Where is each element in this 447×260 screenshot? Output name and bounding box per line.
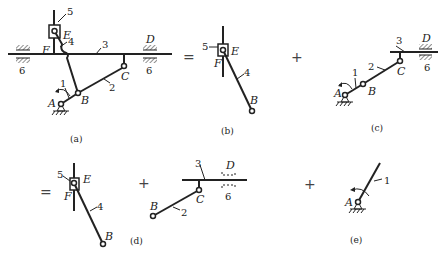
label-F: F xyxy=(63,190,72,203)
label-member-3: 3 xyxy=(396,35,402,46)
label-member-4: 4 xyxy=(244,67,250,78)
label-member-6-right: 6 xyxy=(146,65,152,76)
joint-E xyxy=(221,48,226,53)
joint-A xyxy=(59,102,64,107)
caption-b: (b) xyxy=(221,126,234,136)
member-2-link xyxy=(153,190,199,216)
label-member-3: 3 xyxy=(102,39,108,50)
joint-B xyxy=(151,214,156,219)
label-C: C xyxy=(121,70,130,83)
panel-d: 5 E F 4 B (d) + 3 D 6 C B 2 xyxy=(57,158,247,247)
label-member-4: 4 xyxy=(97,201,103,212)
removed-guide-6-top xyxy=(222,172,235,175)
label-member-4: 4 xyxy=(68,36,74,47)
label-member-1: 1 xyxy=(60,78,66,89)
joint-A xyxy=(343,93,348,98)
label-A: A xyxy=(333,87,342,100)
label-member-2: 2 xyxy=(368,61,374,72)
member-4-link xyxy=(74,183,103,244)
label-A: A xyxy=(344,196,353,209)
joint-C xyxy=(122,64,127,69)
label-member-2: 2 xyxy=(109,82,115,93)
label-F: F xyxy=(41,44,50,57)
caption-e: (e) xyxy=(350,235,362,245)
label-B: B xyxy=(249,94,258,107)
caption-d: (d) xyxy=(130,236,143,246)
panel-a: 5 E 4 F 3 D 6 6 C 2 1 B A (a) xyxy=(8,6,172,144)
member-2-link xyxy=(78,67,124,93)
equals-sign-2: = xyxy=(40,184,52,200)
label-C: C xyxy=(196,193,205,206)
label-E: E xyxy=(82,173,91,186)
panel-b: 5 E F 4 B (b) xyxy=(202,26,258,136)
label-member-1: 1 xyxy=(352,67,358,78)
label-D: D xyxy=(145,33,155,46)
label-B: B xyxy=(80,94,89,107)
mechanism-diagram: 5 E 4 F 3 D 6 6 C 2 1 B A (a) = 5 E F 4 … xyxy=(0,0,447,260)
joint-C xyxy=(197,188,202,193)
label-B-2: B xyxy=(149,200,158,213)
label-member-6: 6 xyxy=(424,62,430,73)
label-F: F xyxy=(213,57,222,70)
joint-B xyxy=(250,109,255,114)
label-member-5: 5 xyxy=(202,41,208,52)
caption-c: (c) xyxy=(371,123,383,133)
joint-C xyxy=(398,59,403,64)
joint-B xyxy=(361,82,366,87)
label-member-2: 2 xyxy=(181,207,187,218)
plus-sign-3: + xyxy=(304,176,316,192)
label-B: B xyxy=(367,85,376,98)
plus-sign: + xyxy=(291,49,303,65)
label-member-3: 3 xyxy=(195,158,201,169)
joint-E xyxy=(72,181,77,186)
label-member-6-left: 6 xyxy=(19,65,25,76)
caption-a: (a) xyxy=(70,134,82,144)
label-member-5: 5 xyxy=(67,6,73,17)
panel-e: 1 A (e) xyxy=(344,163,390,245)
joint-A xyxy=(356,200,361,205)
label-member-6: 6 xyxy=(225,191,231,202)
joint-E xyxy=(52,29,57,34)
label-member-1: 1 xyxy=(384,175,390,186)
member-4-link xyxy=(223,50,252,111)
member-1-crank xyxy=(358,163,380,202)
label-E: E xyxy=(230,45,239,58)
label-B: B xyxy=(104,230,113,243)
equals-sign: = xyxy=(183,49,195,65)
panel-c: 3 D 6 2 C 1 B A (c) xyxy=(333,32,438,133)
label-D: D xyxy=(225,159,235,172)
label-D: D xyxy=(421,32,431,45)
removed-guide-6-bottom xyxy=(222,185,235,188)
label-member-5: 5 xyxy=(57,169,63,180)
plus-sign-2: + xyxy=(138,175,150,191)
label-C: C xyxy=(397,65,406,78)
label-A: A xyxy=(47,97,56,110)
joint-B xyxy=(76,91,81,96)
